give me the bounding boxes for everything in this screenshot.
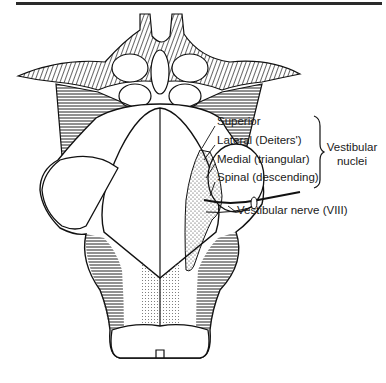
label-medial: Medial (triangular) <box>217 153 310 166</box>
label-lateral: Lateral (Deiters') <box>217 134 302 147</box>
label-vestibular-nerve: Vestibular nerve (VIII) <box>237 204 348 217</box>
group-label-line2: nuclei <box>322 154 382 168</box>
brainstem-illustration <box>0 0 386 383</box>
group-label-line1: Vestibular <box>322 140 382 154</box>
label-spinal: Spinal (descending) <box>217 171 319 184</box>
label-superior: Superior <box>217 115 260 128</box>
group-label-vestibular-nuclei: Vestibular nuclei <box>322 140 382 168</box>
